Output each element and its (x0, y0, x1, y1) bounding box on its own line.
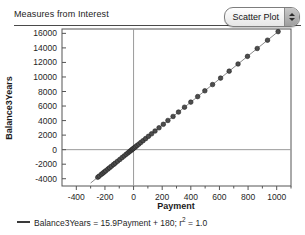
svg-text:1000: 1000 (267, 192, 286, 202)
legend: Balance3Years = 15.9Payment + 180; r2 = … (17, 216, 207, 228)
svg-text:600: 600 (212, 192, 226, 202)
svg-text:800: 800 (241, 192, 255, 202)
svg-text:2000: 2000 (38, 130, 57, 140)
chart-canvas: -4000-2000020004000600080001000012000140… (0, 0, 305, 235)
svg-text:10000: 10000 (33, 72, 57, 82)
svg-text:-400: -400 (68, 192, 85, 202)
svg-text:6000: 6000 (38, 101, 57, 111)
plot-frame (62, 29, 291, 186)
scatter-plot-panel: Measures from Interest Scatter Plot -400… (0, 0, 305, 235)
y-axis-ticks: -4000-2000020004000600080001000012000140… (33, 28, 66, 183)
legend-equation: Balance3Years = 15.9Payment + 180; r2 = … (34, 216, 207, 228)
svg-text:14000: 14000 (33, 43, 57, 53)
svg-text:0: 0 (52, 145, 57, 155)
legend-equation-prefix: Balance3Years = 15.9Payment + 180; r (34, 218, 182, 228)
x-axis-ticks: -400-20002004006008001000 (68, 186, 291, 202)
y-axis-label: Balance3Years (4, 76, 14, 140)
svg-text:8000: 8000 (38, 87, 57, 97)
svg-text:4000: 4000 (38, 116, 57, 126)
x-axis-label: Payment (157, 201, 195, 211)
svg-text:0: 0 (131, 192, 136, 202)
svg-text:-2000: -2000 (35, 159, 57, 169)
svg-text:-200: -200 (96, 192, 113, 202)
svg-text:12000: 12000 (33, 57, 57, 67)
svg-text:16000: 16000 (33, 28, 57, 38)
svg-text:-4000: -4000 (35, 174, 57, 184)
line-swatch-icon (17, 221, 30, 223)
legend-equation-suffix: = 1.0 (186, 218, 208, 228)
